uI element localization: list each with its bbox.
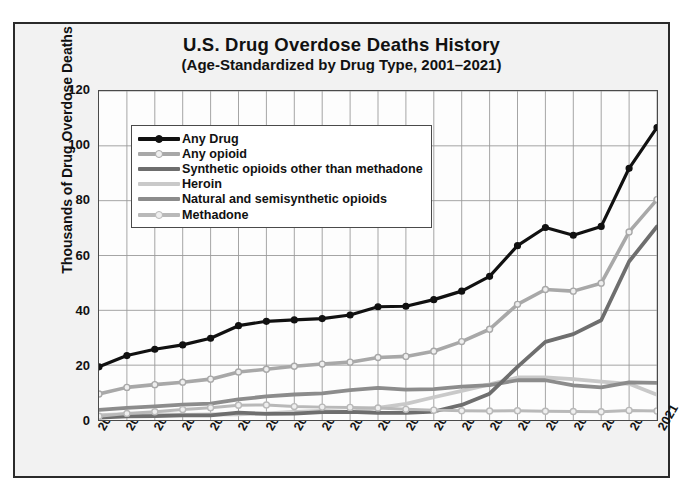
- legend-label: Methadone: [182, 208, 248, 222]
- legend-item[interactable]: Heroin: [138, 177, 423, 192]
- legend-swatch-icon: [138, 193, 180, 205]
- legend-item[interactable]: Natural and semisynthetic opioids: [138, 192, 423, 207]
- y-tick-label: 100: [50, 137, 90, 152]
- legend-item[interactable]: Methadone: [138, 207, 423, 222]
- y-tick-label: 40: [50, 303, 90, 318]
- legend-label: Any opioid: [182, 147, 247, 161]
- x-tick-label: 2021: [655, 402, 681, 433]
- legend-swatch-icon: [138, 178, 180, 190]
- legend-swatch-icon: [138, 148, 180, 160]
- legend-label: Heroin: [182, 177, 222, 191]
- chart-title-block: U.S. Drug Overdose Deaths History (Age-S…: [15, 34, 668, 75]
- y-tick-label: 80: [50, 192, 90, 207]
- legend-item[interactable]: Any Drug: [138, 131, 423, 146]
- y-tick-label: 20: [50, 358, 90, 373]
- y-tick-label: 0: [50, 413, 90, 428]
- chart-frame: U.S. Drug Overdose Deaths History (Age-S…: [13, 22, 670, 478]
- page-title: U.S. Drug Overdose Deaths History: [15, 34, 668, 55]
- legend-label: Any Drug: [182, 132, 239, 146]
- legend-item[interactable]: Any opioid: [138, 146, 423, 161]
- chart-legend: Any DrugAny opioidSynthetic opioids othe…: [131, 125, 432, 228]
- legend-label: Natural and semisynthetic opioids: [182, 192, 387, 206]
- y-tick-label: 120: [50, 82, 90, 97]
- legend-swatch-icon: [138, 163, 180, 175]
- legend-item[interactable]: Synthetic opioids other than methadone: [138, 161, 423, 176]
- legend-swatch-icon: [138, 133, 180, 145]
- legend-label: Synthetic opioids other than methadone: [182, 162, 423, 176]
- chart-subtitle: (Age-Standardized by Drug Type, 2001–202…: [15, 56, 668, 75]
- legend-swatch-icon: [138, 209, 180, 221]
- y-tick-label: 60: [50, 248, 90, 263]
